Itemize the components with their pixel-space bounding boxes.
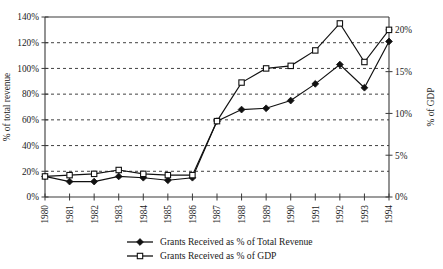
x-axis-tick-label: 1981 <box>65 205 75 224</box>
legend-marker <box>137 253 142 258</box>
y2-axis-tick-label: 10% <box>395 109 412 119</box>
y-axis-tick-label: 100% <box>17 64 39 74</box>
x-axis-tick-label: 1988 <box>237 205 247 224</box>
y2-axis-tick-label: 5% <box>395 151 408 161</box>
legend-item[interactable]: Grants Received as % of GDP <box>127 250 276 261</box>
data-point <box>337 21 342 26</box>
data-point <box>91 171 96 176</box>
y-axis-tick-label: 20% <box>22 167 39 177</box>
data-point <box>141 171 146 176</box>
data-point <box>263 105 270 112</box>
legend-item-label: Grants Received as % of GDP <box>160 250 276 261</box>
x-axis-tick-label: 1987 <box>212 205 222 224</box>
y-axis-tick-label: 0% <box>27 192 40 202</box>
data-point <box>190 172 195 177</box>
x-axis-tick-label: 1989 <box>262 205 272 224</box>
chart-container: 0%20%40%60%80%100%120%140%0%5%10%15%20%1… <box>0 0 443 269</box>
data-point <box>91 178 98 185</box>
x-axis-tick-label: 1993 <box>360 205 370 224</box>
data-point <box>288 63 293 68</box>
x-axis-tick-label: 1984 <box>139 205 149 224</box>
series-1 <box>42 38 393 185</box>
data-point <box>66 178 73 185</box>
data-point <box>116 167 121 172</box>
series-line <box>45 23 389 176</box>
y2-axis-tick-label: 20% <box>395 25 412 35</box>
data-point <box>362 59 367 64</box>
y2-axis-title: % of GDP <box>426 88 436 127</box>
y-axis-tick-label: 140% <box>17 12 39 22</box>
data-point <box>313 48 318 53</box>
y2-axis-tick-label: 0% <box>395 192 408 202</box>
x-axis-tick-label: 1990 <box>286 205 296 224</box>
data-point <box>287 97 294 104</box>
legend-marker <box>137 239 144 246</box>
x-axis-tick-label: 1994 <box>384 205 394 224</box>
data-point <box>42 174 47 179</box>
data-point <box>67 172 72 177</box>
y2-axis-tick-label: 15% <box>395 67 412 77</box>
data-point <box>238 106 245 113</box>
x-axis-tick-label: 1982 <box>90 205 100 224</box>
x-axis-tick-label: 1991 <box>311 205 321 224</box>
x-axis-tick-label: 1985 <box>163 205 173 224</box>
y-axis-tick-label: 60% <box>22 115 39 125</box>
data-point <box>239 80 244 85</box>
data-point <box>263 66 268 71</box>
legend-item-label: Grants Received as % of Total Revenue <box>160 236 313 247</box>
y-axis-tick-label: 80% <box>22 89 39 99</box>
x-axis-tick-label: 1980 <box>40 205 50 224</box>
data-point <box>214 118 219 123</box>
line-chart: 0%20%40%60%80%100%120%140%0%5%10%15%20%1… <box>0 0 443 269</box>
y-axis-title: % of total revenue <box>2 73 12 141</box>
data-point <box>115 173 122 180</box>
series-line <box>45 41 389 181</box>
y-axis-tick-label: 120% <box>17 38 39 48</box>
x-axis-tick-label: 1992 <box>335 205 345 224</box>
y-axis-tick-label: 40% <box>22 141 39 151</box>
x-axis-tick-label: 1986 <box>188 205 198 224</box>
x-axis-tick-label: 1983 <box>114 205 124 224</box>
series-2 <box>42 21 391 179</box>
data-point <box>386 27 391 32</box>
data-point <box>386 38 393 45</box>
data-point <box>165 172 170 177</box>
legend-item[interactable]: Grants Received as % of Total Revenue <box>127 236 313 247</box>
